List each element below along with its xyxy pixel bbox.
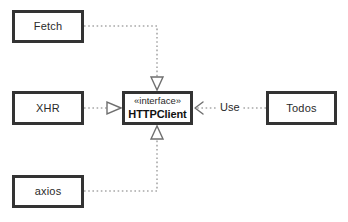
open-arrowhead-left: [195, 102, 203, 114]
interface-stereotype-label: «interface»: [134, 96, 181, 107]
uml-diagram-canvas: Fetch XHR axios «interface» HTTPClient T…: [0, 0, 348, 222]
edge-axios-realizes-httpclient: [84, 126, 163, 191]
class-box-axios-label: axios: [35, 185, 62, 198]
edge-fetch-realizes-httpclient: [84, 26, 163, 90]
class-box-axios[interactable]: axios: [12, 175, 84, 208]
interface-name-label: HTTPClient: [128, 108, 186, 121]
class-box-fetch[interactable]: Fetch: [12, 10, 84, 43]
class-box-xhr[interactable]: XHR: [12, 91, 84, 125]
class-box-fetch-label: Fetch: [34, 20, 63, 33]
hollow-triangle-arrowhead-right: [107, 102, 121, 114]
hollow-triangle-arrowhead-up: [151, 126, 163, 139]
class-box-todos[interactable]: Todos: [266, 91, 337, 125]
class-box-xhr-label: XHR: [36, 102, 60, 115]
interface-box-httpclient[interactable]: «interface» HTTPClient: [122, 91, 193, 125]
edge-xhr-realizes-httpclient: [84, 102, 121, 114]
hollow-triangle-arrowhead-down: [151, 77, 163, 90]
class-box-todos-label: Todos: [286, 102, 316, 115]
edge-label-use: Use: [218, 101, 242, 113]
